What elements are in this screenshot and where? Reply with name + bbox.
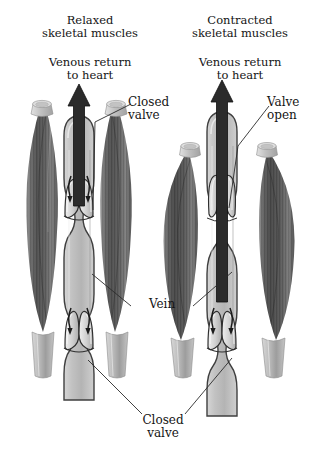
heading-relaxed-line2: skeletal muscles — [42, 26, 138, 40]
heading-contracted-line2: skeletal muscles — [192, 26, 288, 40]
callout-valve-open: Valveopen — [267, 96, 323, 123]
callout-vein: Vein — [132, 298, 192, 311]
callout-closed-valve-bottom-line2: valve — [147, 426, 179, 440]
callout-valve-open-line2: open — [267, 108, 297, 122]
label-venous-return-left: Venous returnto heart — [22, 56, 158, 82]
figure-canvas: Relaxedskeletal muscles Contractedskelet… — [0, 0, 324, 456]
callout-closed-valve-top: Closedvalve — [128, 96, 190, 123]
venous-return-right-line2: to heart — [217, 68, 263, 82]
heading-contracted: Contractedskeletal muscles — [172, 14, 308, 40]
heading-relaxed: Relaxedskeletal muscles — [22, 14, 158, 40]
label-venous-return-right: Venous returnto heart — [172, 56, 308, 82]
callout-closed-valve-top-line2: valve — [128, 108, 160, 122]
callout-closed-valve-bottom: Closedvalve — [128, 414, 198, 441]
callout-closed-valve-top-line1: Closed — [128, 95, 169, 109]
callout-valve-open-line1: Valve — [267, 95, 299, 109]
venous-return-left-line2: to heart — [67, 68, 113, 82]
callout-closed-valve-bottom-line1: Closed — [142, 413, 183, 427]
